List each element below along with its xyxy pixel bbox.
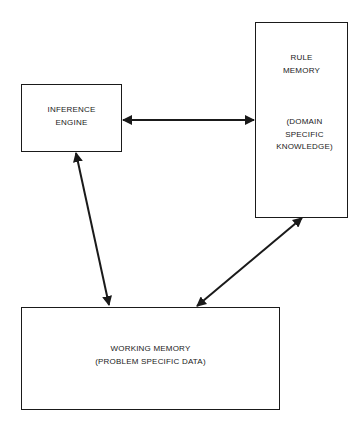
- inference-engine-label: INFERENCE ENGINE: [21, 104, 122, 129]
- working-memory-line-2: (PROBLEM SPECIFIC DATA): [21, 356, 280, 369]
- rule-memory-sub-line-1: (DOMAIN: [258, 116, 351, 129]
- arrow-rule-working: [197, 218, 302, 306]
- rule-memory-line-2: MEMORY: [255, 65, 348, 78]
- working-memory-line-1: WORKING MEMORY: [21, 343, 280, 356]
- arrow-engine-working: [76, 153, 109, 305]
- inference-engine-line-2: ENGINE: [21, 117, 122, 130]
- rule-memory-sub-line-3: KNOWLEDGE): [258, 141, 351, 154]
- rule-memory-line-1: RULE: [255, 52, 348, 65]
- rule-memory-subtitle: (DOMAIN SPECIFIC KNOWLEDGE): [258, 116, 351, 154]
- working-memory-label: WORKING MEMORY (PROBLEM SPECIFIC DATA): [21, 343, 280, 368]
- rule-memory-title: RULE MEMORY: [255, 52, 348, 77]
- rule-memory-sub-line-2: SPECIFIC: [258, 129, 351, 142]
- inference-engine-line-1: INFERENCE: [21, 104, 122, 117]
